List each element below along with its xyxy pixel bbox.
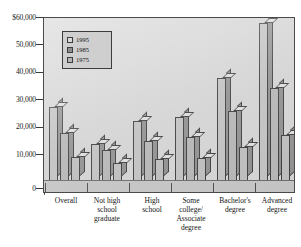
x-tick-mark-0 <box>45 183 46 193</box>
bar-face <box>113 163 122 181</box>
bar-top <box>222 73 236 78</box>
bar-top <box>286 130 295 135</box>
bar-face <box>259 23 268 181</box>
x-category-label-advanced-degree: Advanced degree <box>253 196 301 214</box>
x-tick-mark-3 <box>171 183 172 193</box>
y-tick-label-60000: $60,000 <box>0 13 36 22</box>
legend-swatch-icon-1985 <box>67 47 73 53</box>
bar-top <box>65 128 79 133</box>
bar-1985-3 <box>186 137 195 181</box>
legend: 1995 1985 1975 <box>62 31 112 69</box>
bar-face <box>155 159 164 181</box>
bar-1975-2 <box>155 159 164 181</box>
bar-face <box>175 117 184 181</box>
bar-face <box>281 135 290 181</box>
bar-face <box>144 141 153 181</box>
legend-label-1985: 1985 <box>76 46 89 54</box>
x-category-label-not-high-school-graduate: Not high school graduate <box>83 196 131 223</box>
y-tick-label-0: 0 <box>0 184 36 193</box>
bar-1995-0 <box>49 107 58 181</box>
bar-1985-1 <box>102 150 111 181</box>
x-tick-mark-4 <box>213 183 214 193</box>
bar-1995-1 <box>91 144 100 181</box>
y-tick-label-10000: 10,000 <box>0 150 36 159</box>
bar-face <box>60 133 69 181</box>
legend-item-1995: 1995 <box>67 35 107 45</box>
bar-1975-5 <box>281 135 290 181</box>
bar-top <box>233 106 247 111</box>
bar-1985-0 <box>60 133 69 181</box>
bar-1975-3 <box>197 158 206 181</box>
bar-face <box>49 107 58 181</box>
bar-1995-4 <box>217 78 226 181</box>
bar-1985-2 <box>144 141 153 181</box>
bar-face <box>197 158 206 181</box>
bar-top <box>138 116 152 121</box>
bar-1995-2 <box>133 121 142 181</box>
bar-top <box>275 83 289 88</box>
bar-top <box>118 158 132 163</box>
plot-floor <box>44 180 294 192</box>
bar-1995-5 <box>259 23 268 181</box>
y-tick-label-40000: 40,000 <box>0 67 36 76</box>
bar-top <box>96 139 110 144</box>
bar-face <box>270 88 279 181</box>
bar-face <box>228 111 237 181</box>
y-tick-label-30000: 30,000 <box>0 95 36 104</box>
bar-top <box>180 112 194 117</box>
bar-1995-3 <box>175 117 184 181</box>
x-tick-mark-2 <box>129 183 130 193</box>
bar-chart: $60,000 50,000 40,000 30,000 20,000 10,0… <box>0 0 301 247</box>
bar-top <box>191 132 205 137</box>
bar-top <box>149 136 163 141</box>
y-tick-label-20000: 20,000 <box>0 122 36 131</box>
legend-item-1975: 1975 <box>67 55 107 65</box>
x-tick-mark-5 <box>255 183 256 193</box>
x-tick-mark-1 <box>87 183 88 193</box>
bar-1975-4 <box>239 147 248 181</box>
bar-top <box>107 145 121 150</box>
bar-1985-4 <box>228 111 237 181</box>
bar-face <box>71 157 80 181</box>
bar-1975-0 <box>71 157 80 181</box>
bar-top <box>202 153 216 158</box>
bar-top <box>54 102 68 107</box>
bar-face <box>217 78 226 181</box>
x-category-label-some-college: Some college/ Associate degree <box>167 196 215 232</box>
bar-top <box>244 142 258 147</box>
bar-face <box>91 144 100 181</box>
legend-item-1985: 1985 <box>67 45 107 55</box>
legend-swatch-icon-1995 <box>67 37 73 43</box>
bar-top <box>264 18 278 23</box>
legend-swatch-icon-1975 <box>67 57 73 63</box>
bar-1985-5 <box>270 88 279 181</box>
y-tick-label-50000: 50,000 <box>0 40 36 49</box>
bar-1975-1 <box>113 163 122 181</box>
bar-top <box>160 154 174 159</box>
bar-face <box>239 147 248 181</box>
bar-top <box>76 152 90 157</box>
legend-label-1995: 1995 <box>76 36 89 44</box>
bar-face <box>186 137 195 181</box>
bar-face <box>102 150 111 181</box>
legend-label-1975: 1975 <box>76 56 89 64</box>
bar-face <box>133 121 142 181</box>
